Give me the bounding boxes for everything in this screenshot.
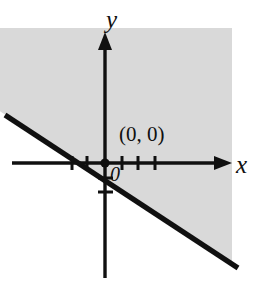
origin-coordinate-label: (0, 0): [119, 124, 165, 145]
origin-zero-label: 0: [110, 164, 120, 184]
origin-point-dot: [100, 158, 109, 167]
inequality-graph-figure: y x (0, 0) 0: [0, 0, 256, 285]
y-axis-label: y: [106, 7, 117, 32]
x-axis-label: x: [236, 152, 247, 177]
